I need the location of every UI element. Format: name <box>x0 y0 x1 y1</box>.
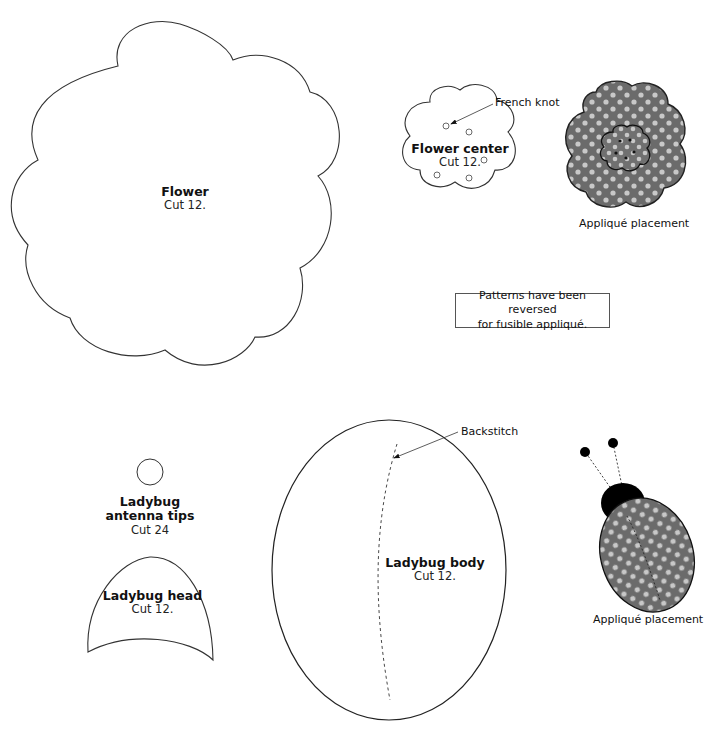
ladybug-body-label: Ladybug body Cut 12. <box>380 556 490 584</box>
antenna-tip-pattern-outline <box>137 459 163 485</box>
antenna-tip-right <box>608 438 618 448</box>
flower-title: Flower <box>135 185 235 199</box>
ladybug-head-title: Ladybug head <box>100 589 205 603</box>
flower-center-title: Flower center <box>410 142 510 156</box>
flower-center-cut: Cut 12. <box>410 156 510 169</box>
flower-placement-caption: Appliqué placement <box>579 217 689 230</box>
flower-center-label: Flower center Cut 12. <box>410 142 510 170</box>
antenna-tips-label: Ladybug antenna tips Cut 24 <box>100 495 200 537</box>
french-knot-callout: French knot <box>495 96 559 109</box>
note-line-2: for fusible appliqué. <box>456 318 609 332</box>
antenna-tips-title-2: antenna tips <box>100 509 200 523</box>
ladybug-body-cut: Cut 12. <box>380 570 490 583</box>
note-line-1: Patterns have been reversed <box>456 289 609 318</box>
flower-label: Flower Cut 12. <box>135 185 235 213</box>
ladybug-body-title: Ladybug body <box>380 556 490 570</box>
antenna-tips-title-1: Ladybug <box>100 495 200 509</box>
backstitch-callout: Backstitch <box>461 425 518 438</box>
ladybug-applique <box>580 438 709 624</box>
ladybug-head-cut: Cut 12. <box>100 603 205 616</box>
antenna-tip-left <box>580 447 590 457</box>
ladybug-placement-caption: Appliqué placement <box>593 613 703 626</box>
flower-cut: Cut 12. <box>135 199 235 212</box>
ladybug-head-label: Ladybug head Cut 12. <box>100 589 205 617</box>
reversed-patterns-note: Patterns have been reversed for fusible … <box>455 293 610 328</box>
antenna-tips-cut: Cut 24 <box>100 524 200 537</box>
